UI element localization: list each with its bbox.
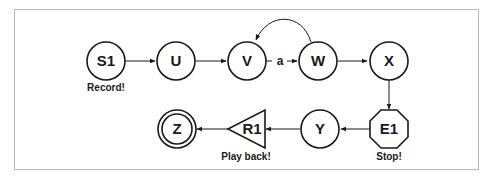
node-v: V	[228, 42, 266, 80]
node-label-x: X	[384, 52, 394, 69]
node-label-v: V	[242, 52, 252, 69]
node-label-u: U	[171, 52, 182, 69]
node-e1: E1 Stop!	[370, 110, 408, 162]
state-diagram: S1 Record! U V a W X E1 Stop! Y R1 Play …	[0, 0, 496, 180]
caption-play-back: Play back!	[221, 151, 270, 162]
node-x: X	[370, 42, 408, 80]
node-label-w: W	[311, 52, 326, 69]
caption-stop: Stop!	[376, 151, 402, 162]
node-y: Y	[301, 110, 339, 148]
node-label-e1: E1	[380, 120, 398, 137]
node-label-y: Y	[315, 120, 325, 137]
node-label-r1: R1	[242, 120, 261, 137]
node-u: U	[157, 42, 195, 80]
node-label-s1: S1	[97, 52, 115, 69]
node-r1: R1 Play back!	[221, 110, 270, 162]
edge-w-v-loop	[256, 19, 311, 42]
node-s1: S1 Record!	[87, 42, 125, 93]
node-z: Z	[158, 110, 196, 148]
node-label-z: Z	[172, 120, 181, 137]
caption-record: Record!	[87, 82, 125, 93]
edge-label-a: a	[277, 54, 284, 68]
node-w: W	[299, 42, 337, 80]
